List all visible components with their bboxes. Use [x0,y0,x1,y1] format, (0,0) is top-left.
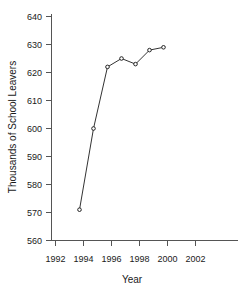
y-tick-label-580: 580 [27,180,42,190]
y-tick-label-560: 560 [27,236,42,246]
x-tick-label-1998: 1998 [129,254,149,264]
y-tick-label-620: 620 [27,68,42,78]
y-axis-tick-labels: 640 630 620 610 600 590 580 570 560 [27,12,42,246]
x-tick-label-2002: 2002 [185,254,205,264]
chart-container: 640 630 620 610 600 590 580 570 560 Thou… [0,0,247,297]
x-axis-title: Year [122,274,143,285]
data-point-1997 [120,57,124,61]
y-tick-label-570: 570 [27,208,42,218]
x-tick-label-2000: 2000 [157,254,177,264]
x-axis-tick-labels: 1992 1994 1996 1998 2000 2002 [45,254,205,264]
data-point-1998 [134,62,138,66]
y-axis: 640 630 620 610 600 590 580 570 560 Thou… [7,12,52,246]
x-axis: 1992 1994 1996 1998 2000 2002 Year [45,241,238,286]
data-point-2000 [162,46,166,50]
data-point-1995 [92,127,96,131]
y-tick-label-600: 600 [27,124,42,134]
x-tick-label-1992: 1992 [45,254,65,264]
y-tick-label-630: 630 [27,40,42,50]
x-tick-label-1996: 1996 [101,254,121,264]
y-tick-label-640: 640 [27,12,42,22]
y-tick-label-610: 610 [27,96,42,106]
data-point-1994 [78,208,82,212]
x-tick-label-1994: 1994 [73,254,93,264]
data-point-1999 [148,48,152,52]
y-axis-ticks [46,17,52,241]
x-axis-ticks [56,241,196,247]
data-point-1996 [106,65,110,69]
y-axis-title: Thousands of School Leavers [7,61,18,193]
data-series-school-leavers [78,46,166,212]
line-chart: 640 630 620 610 600 590 580 570 560 Thou… [0,0,247,297]
y-tick-label-590: 590 [27,152,42,162]
